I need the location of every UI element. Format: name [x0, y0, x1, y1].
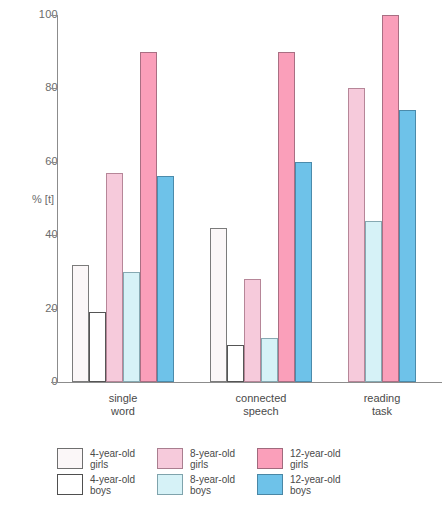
figure: 100806040200 % [t] singlewordconnectedsp…	[0, 0, 447, 519]
bar-s12g-group2	[278, 52, 295, 382]
legend-swatch-s8g	[157, 448, 183, 469]
legend-label-s12b: 12-year-old boys	[290, 474, 341, 496]
legend-column-2: 8-year-old girls8-year-old boys	[157, 448, 253, 502]
bar-s8b-group3	[365, 221, 382, 382]
bar-s12b-group3	[399, 110, 416, 382]
legend-label-s4g: 4-year-old girls	[90, 448, 135, 470]
category-label-3: readingtask	[332, 392, 432, 418]
bar-s8b-group1	[123, 272, 140, 382]
category-label-line2: word	[73, 405, 173, 418]
category-label-line1: single	[73, 392, 173, 405]
bar-s12b-group1	[157, 176, 174, 382]
category-label-line1: reading	[332, 392, 432, 405]
legend-entry-s12b: 12-year-old boys	[257, 474, 341, 498]
legend-swatch-s8b	[157, 474, 183, 495]
category-label-line2: speech	[211, 405, 311, 418]
legend-entry-s12g: 12-year-old girls	[257, 448, 341, 472]
bar-s4g-group2	[210, 228, 227, 382]
category-label-2: connectedspeech	[211, 392, 311, 418]
bar-s4g-group1	[72, 265, 89, 382]
bar-s4b-group1	[89, 312, 106, 382]
legend-swatch-s4g	[57, 448, 83, 469]
bar-s4b-group2	[227, 345, 244, 382]
chart-plot-area: 100806040200 % [t] singlewordconnectedsp…	[0, 0, 447, 400]
x-axis-line	[57, 382, 442, 383]
bar-s8b-group2	[261, 338, 278, 382]
y-tick-0: 0	[0, 382, 58, 383]
legend-column-1: 4-year-old girls4-year-old boys	[57, 448, 153, 502]
y-tick-mark	[51, 382, 58, 383]
category-label-1: singleword	[73, 392, 173, 418]
legend-entry-s8b: 8-year-old boys	[157, 474, 235, 498]
legend-entry-s4g: 4-year-old girls	[57, 448, 135, 472]
legend-column-3: 12-year-old girls12-year-old boys	[257, 448, 353, 502]
bar-s8g-group1	[106, 173, 123, 382]
figure-caption	[22, 507, 437, 519]
legend-swatch-s4b	[57, 474, 83, 495]
legend-label-s8b: 8-year-old boys	[190, 474, 235, 496]
legend-label-s4b: 4-year-old boys	[90, 474, 135, 496]
bar-s8g-group2	[244, 279, 261, 382]
chart-legend: 4-year-old girls4-year-old boys8-year-ol…	[57, 448, 347, 502]
bar-s8g-group3	[348, 88, 365, 382]
category-label-line2: task	[332, 405, 432, 418]
legend-entry-s8g: 8-year-old girls	[157, 448, 235, 472]
legend-swatch-s12g	[257, 448, 283, 469]
legend-swatch-s12b	[257, 474, 283, 495]
bar-s12b-group2	[295, 162, 312, 382]
legend-label-s12g: 12-year-old girls	[290, 448, 341, 470]
legend-entry-s4b: 4-year-old boys	[57, 474, 135, 498]
bar-s12g-group3	[382, 15, 399, 382]
legend-label-s8g: 8-year-old girls	[190, 448, 235, 470]
bar-s12g-group1	[140, 52, 157, 382]
bars-layer	[0, 0, 447, 382]
category-label-line1: connected	[211, 392, 311, 405]
